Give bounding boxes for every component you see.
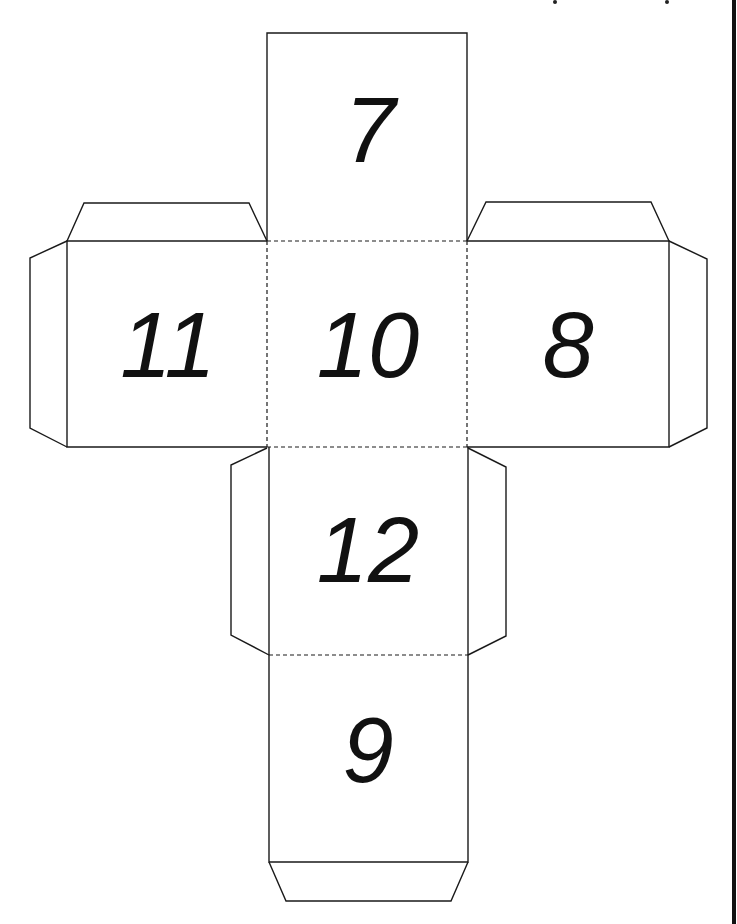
- face-lower: 12: [231, 447, 506, 655]
- face-top: 7: [267, 33, 467, 241]
- face-label-bottom: 9: [342, 699, 393, 801]
- glue-tab-left-top: [67, 203, 267, 241]
- face-label-center: 10: [317, 294, 419, 396]
- glue-tab-lower-left: [231, 448, 269, 655]
- face-center: 10: [267, 241, 467, 447]
- face-bottom: 9: [269, 655, 468, 901]
- face-label-lower: 12: [317, 499, 419, 601]
- glue-tab-right-top: [467, 202, 669, 241]
- glue-tab-left-side: [30, 241, 67, 447]
- glue-tab-bottom: [269, 862, 468, 901]
- face-label-top: 7: [344, 79, 398, 181]
- face-label-right: 8: [542, 294, 593, 396]
- glue-tab-right-side: [669, 241, 707, 447]
- glue-tab-lower-right: [468, 448, 506, 655]
- face-right: 8: [467, 202, 707, 447]
- die-net-diagram: 7 11 10 8 12 9: [0, 0, 737, 924]
- face-label-left: 11: [120, 294, 216, 396]
- face-left: 11: [30, 203, 267, 447]
